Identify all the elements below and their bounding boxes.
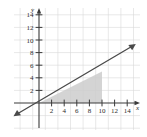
x-tick-label-8: 8 [88,107,92,115]
x-tick-label-4: 4 [62,107,66,115]
x-tick-label-2: 2 [50,107,54,115]
chart-container: 14 12 10 8 6 4 2 2 4 6 8 10 12 14 y x [0,0,147,137]
x-tick-label-10: 10 [99,107,107,115]
y-tick-label-4: 4 [30,74,34,82]
y-tick-label-12: 12 [27,24,35,32]
y-tick-label-10: 10 [27,37,35,45]
coordinate-plane-chart: 14 12 10 8 6 4 2 2 4 6 8 10 12 14 y x [0,0,147,137]
x-tick-label-12: 12 [111,107,119,115]
y-tick-label-6: 6 [30,62,34,70]
y-tick-label-2: 2 [30,87,34,95]
y-tick-label-8: 8 [30,49,34,57]
x-tick-label-6: 6 [75,107,79,115]
x-tick-label-14: 14 [124,107,132,115]
